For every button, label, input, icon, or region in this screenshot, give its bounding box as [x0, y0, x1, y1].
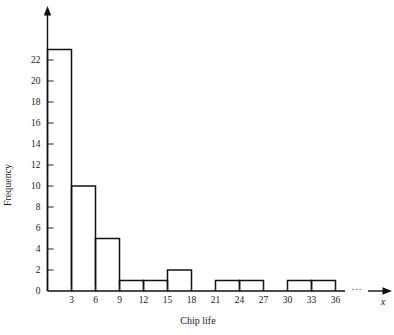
x-tick-label: 36	[331, 295, 341, 305]
histogram-bar	[240, 281, 264, 292]
x-axis-variable-label: x	[380, 296, 386, 307]
y-axis-arrowhead	[44, 6, 51, 16]
y-tick-label: 8	[36, 202, 41, 212]
x-axis-break-dots: ⋯	[351, 284, 363, 296]
x-tick-label: 9	[117, 295, 122, 305]
y-tick-label: 14	[31, 139, 41, 149]
bars-group	[48, 50, 336, 292]
histogram-bar	[96, 239, 120, 292]
histogram-bar	[216, 281, 240, 292]
y-axis-title: Frequency	[2, 164, 13, 206]
y-tick-label: 0	[36, 286, 41, 296]
y-tick-label: 18	[31, 97, 41, 107]
x-tick-label: 24	[235, 295, 245, 305]
y-tick-label: 20	[31, 76, 41, 86]
x-tick-label: 27	[259, 295, 269, 305]
x-tick-label: 12	[139, 295, 149, 305]
histogram-bar	[48, 50, 72, 292]
y-axis-ticks: 0246810121416182022	[31, 55, 54, 296]
y-tick-label: 16	[31, 118, 41, 128]
histogram-bar	[72, 186, 96, 291]
histogram-plot: ⋯ 0246810121416182022 369121518212427303…	[0, 0, 394, 335]
histogram-bar	[288, 281, 312, 292]
y-tick-label: 6	[36, 223, 41, 233]
y-tick-label: 2	[36, 265, 41, 275]
x-tick-label: 30	[283, 295, 293, 305]
x-tick-label: 18	[187, 295, 197, 305]
y-tick-label: 22	[31, 55, 41, 65]
x-axis-ticks: 369121518212427303336	[69, 286, 340, 305]
histogram-bar	[168, 270, 192, 291]
histogram-bar	[312, 281, 336, 292]
histogram-bar	[144, 281, 168, 292]
x-axis-title: Chip life	[180, 315, 216, 326]
y-tick-label: 4	[36, 244, 41, 254]
y-tick-label: 10	[31, 181, 41, 191]
x-tick-label: 21	[211, 295, 221, 305]
x-tick-label: 3	[69, 295, 74, 305]
x-tick-label: 33	[307, 295, 317, 305]
histogram-figure: ⋯ 0246810121416182022 369121518212427303…	[0, 0, 394, 335]
x-tick-label: 6	[93, 295, 98, 305]
x-tick-label: 15	[163, 295, 173, 305]
y-tick-label: 12	[31, 160, 41, 170]
histogram-bar	[120, 281, 144, 292]
x-axis-arrowhead	[383, 287, 393, 294]
